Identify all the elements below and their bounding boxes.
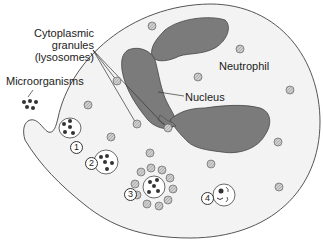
- label-neutrophil: Neutrophil: [219, 60, 269, 72]
- phagolysosome-step-4: [213, 184, 235, 206]
- granules-label-line-2: granules: [32, 39, 94, 51]
- microorganisms-free: [22, 99, 38, 110]
- granules-label-line-3: (lysosomes): [32, 51, 94, 63]
- label-nucleus: Nucleus: [185, 91, 225, 103]
- label-microorganisms: Microorganisms: [6, 75, 84, 87]
- step-1-marker: 1: [70, 141, 83, 154]
- label-cytoplasmic-granules: Cytoplasmic granules (lysosomes): [32, 27, 94, 63]
- granules-label-line-1: Cytoplasmic: [32, 27, 94, 39]
- step-2-marker: 2: [85, 157, 98, 170]
- phagosome-step-1: [59, 118, 81, 138]
- step-4-marker: 4: [201, 192, 214, 205]
- microorganisms-leader: [28, 90, 33, 97]
- step-3-marker: 3: [124, 188, 137, 201]
